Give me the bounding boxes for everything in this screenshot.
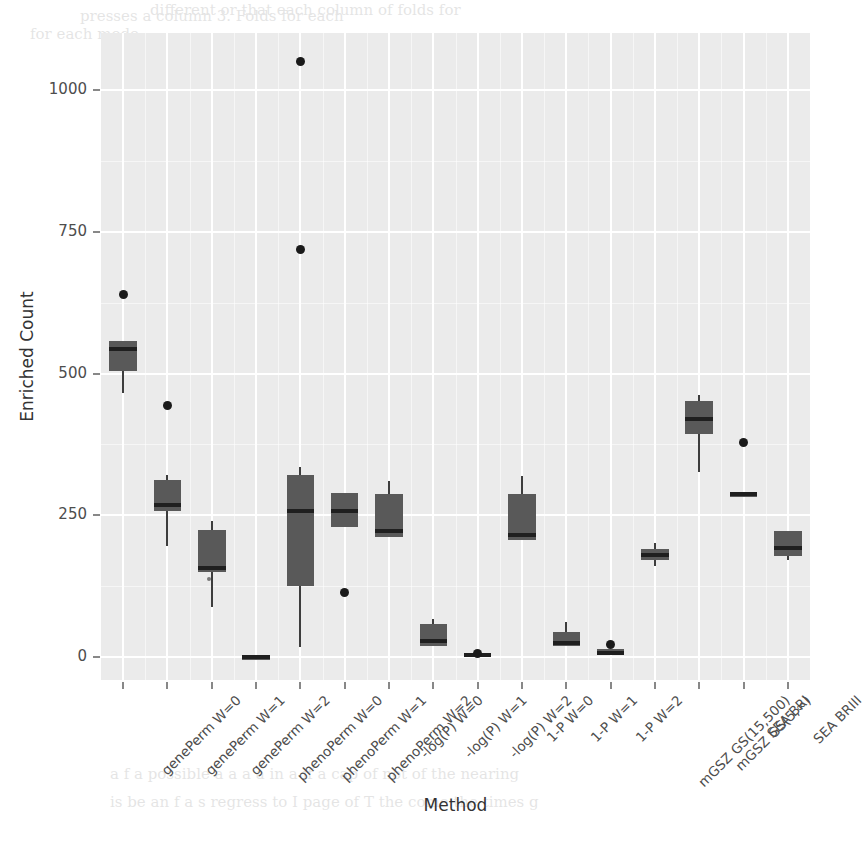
- x-axis-tick-label: mGSZ GS(15,500): [695, 692, 793, 790]
- y-axis-tick-label: 0: [77, 647, 87, 665]
- x-axis-tick-label: genePerm W=1: [202, 692, 288, 778]
- whisker-upper: [565, 622, 567, 632]
- gridline-vertical-minor: [677, 33, 678, 680]
- x-axis-title-text: Method: [424, 795, 488, 815]
- gridline-vertical: [743, 33, 745, 680]
- gridline-horizontal: [101, 373, 810, 375]
- median-line: [109, 347, 136, 351]
- x-axis-tick-mark: [166, 682, 168, 689]
- x-axis-title: Method: [101, 795, 810, 815]
- whisker-upper: [654, 543, 656, 550]
- whisker-lower: [299, 586, 301, 647]
- whisker-upper: [299, 467, 301, 475]
- y-axis-tick-mark: [93, 514, 100, 516]
- gridline-vertical-minor: [500, 33, 501, 680]
- gridline-vertical-minor: [456, 33, 457, 680]
- median-line: [287, 509, 314, 513]
- gridline-vertical: [344, 33, 346, 680]
- gridline-vertical-minor: [588, 33, 589, 680]
- y-axis-tick-label: 250: [58, 505, 87, 523]
- median-line: [685, 417, 712, 421]
- x-axis-tick-mark: [211, 682, 213, 689]
- whisker-lower: [122, 371, 124, 393]
- gridline-vertical-minor: [145, 33, 146, 680]
- gridline-vertical-minor: [278, 33, 279, 680]
- x-axis-tick-mark: [654, 682, 656, 689]
- x-axis-tick-mark: [477, 682, 479, 689]
- median-line: [597, 651, 624, 655]
- gridline-vertical-minor: [190, 33, 191, 680]
- gridline-vertical-minor: [367, 33, 368, 680]
- gridline-vertical: [255, 33, 257, 680]
- y-axis-title-text: Enriched Count: [17, 291, 37, 422]
- gridline-vertical-minor: [544, 33, 545, 680]
- gridline-vertical: [565, 33, 567, 680]
- x-axis-tick-mark: [521, 682, 523, 689]
- gridline-vertical: [166, 33, 168, 680]
- gridline-vertical-minor: [234, 33, 235, 680]
- y-axis-tick-mark: [93, 231, 100, 233]
- median-line: [375, 529, 402, 533]
- x-axis-tick-mark: [122, 682, 124, 689]
- x-axis-tick-label: 1-P W=1: [588, 692, 641, 745]
- x-axis-tick-mark: [344, 682, 346, 689]
- whisker-upper: [388, 481, 390, 493]
- median-line: [508, 533, 535, 537]
- box-body: [287, 475, 314, 586]
- median-line: [242, 655, 269, 659]
- whisker-lower: [698, 434, 700, 473]
- outlier-point: [119, 290, 128, 299]
- gridline-horizontal: [101, 231, 810, 233]
- gridline-horizontal-minor: [101, 303, 810, 304]
- gridline-vertical-minor: [766, 33, 767, 680]
- x-axis-tick-mark: [432, 682, 434, 689]
- y-axis-tick-label: 750: [58, 222, 87, 240]
- whisker-lower: [211, 572, 213, 607]
- median-line: [154, 503, 181, 507]
- box-body: [109, 341, 136, 372]
- gridline-horizontal-minor: [101, 586, 810, 587]
- y-axis-tick-label: 500: [58, 364, 87, 382]
- whisker-upper: [211, 521, 213, 530]
- x-axis-tick-label: genePerm W=0: [158, 692, 244, 778]
- x-axis-tick-mark: [565, 682, 567, 689]
- x-axis-tick-label: SEA BRIII: [810, 692, 864, 747]
- gridline-vertical: [654, 33, 656, 680]
- median-line: [730, 492, 757, 496]
- whisker-lower: [654, 560, 656, 567]
- gridline-horizontal-minor: [101, 444, 810, 445]
- gridline-vertical: [432, 33, 434, 680]
- x-axis-tick-mark: [388, 682, 390, 689]
- plot-panel: [101, 33, 810, 680]
- median-line: [331, 509, 358, 513]
- gridline-horizontal: [101, 89, 810, 91]
- gridline-vertical-minor: [411, 33, 412, 680]
- y-axis-tick-label: 1000: [49, 80, 87, 98]
- median-line: [198, 566, 225, 570]
- gridline-vertical-minor: [323, 33, 324, 680]
- outlier-point: [296, 57, 305, 66]
- median-line: [553, 641, 580, 645]
- x-axis-tick-mark: [255, 682, 257, 689]
- outlier-point: [340, 588, 349, 597]
- y-axis-tick-mark: [93, 373, 100, 375]
- gridline-vertical: [698, 33, 700, 680]
- x-axis-tick-mark: [610, 682, 612, 689]
- median-line: [420, 639, 447, 643]
- median-line: [641, 553, 668, 557]
- y-axis-tick-mark: [93, 656, 100, 658]
- box-body: [774, 531, 801, 556]
- x-axis-tick-mark: [299, 682, 301, 689]
- x-axis-tick-mark: [698, 682, 700, 689]
- gridline-horizontal: [101, 656, 810, 658]
- gridline-horizontal: [101, 514, 810, 516]
- y-axis-tick-mark: [93, 89, 100, 91]
- gridline-vertical: [388, 33, 390, 680]
- gridline-vertical: [787, 33, 789, 680]
- whisker-lower: [166, 511, 168, 546]
- gridline-vertical: [610, 33, 612, 680]
- whisker-upper: [521, 476, 523, 494]
- x-axis-tick-mark: [743, 682, 745, 689]
- gridline-horizontal-minor: [101, 161, 810, 162]
